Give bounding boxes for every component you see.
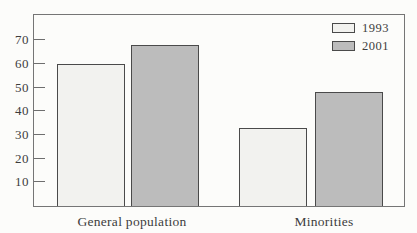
y-tick-70 bbox=[34, 39, 45, 40]
plot-area: 1993 2001 bbox=[33, 14, 405, 207]
y-tick-20 bbox=[34, 158, 45, 159]
y-tick-label-10: 10 bbox=[0, 175, 29, 189]
legend: 1993 2001 bbox=[332, 21, 389, 53]
legend-item-2001: 2001 bbox=[332, 39, 389, 53]
y-tick-label-60: 60 bbox=[0, 57, 29, 71]
bar-general-population-2001 bbox=[131, 45, 199, 206]
y-tick-label-20: 20 bbox=[0, 152, 29, 166]
y-tick-label-70: 70 bbox=[0, 33, 29, 47]
bar-chart-figure: 1993 2001 10203040506070 General populat… bbox=[0, 0, 417, 233]
y-tick-40 bbox=[34, 110, 45, 111]
bar-minorities-1993 bbox=[239, 128, 307, 206]
y-tick-30 bbox=[34, 134, 45, 135]
bar-general-population-1993 bbox=[57, 64, 125, 206]
legend-swatch-1993 bbox=[332, 23, 355, 33]
legend-item-1993: 1993 bbox=[332, 21, 389, 35]
category-label-general-population: General population bbox=[42, 214, 222, 229]
y-tick-label-30: 30 bbox=[0, 128, 29, 142]
legend-label-2001: 2001 bbox=[362, 39, 389, 53]
bar-minorities-2001 bbox=[315, 92, 383, 206]
y-tick-10 bbox=[34, 181, 45, 182]
category-label-minorities: Minorities bbox=[234, 214, 414, 229]
legend-label-1993: 1993 bbox=[362, 21, 389, 35]
y-tick-label-40: 40 bbox=[0, 104, 29, 118]
y-tick-label-50: 50 bbox=[0, 81, 29, 95]
y-tick-50 bbox=[34, 87, 45, 88]
y-tick-60 bbox=[34, 63, 45, 64]
legend-swatch-2001 bbox=[332, 41, 355, 51]
